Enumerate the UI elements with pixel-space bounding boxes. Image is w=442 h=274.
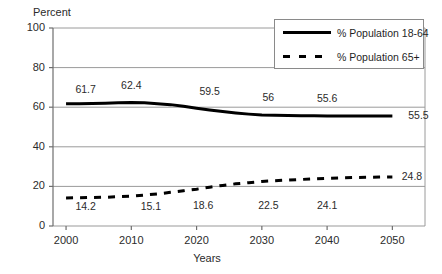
legend-entry-population-18-64: % Population 18-64 (275, 20, 423, 45)
data-point-label: 56 (247, 91, 289, 103)
legend-solid-line-icon (281, 26, 333, 40)
data-point-label: 62.4 (110, 79, 152, 91)
y-axis-tick-label: 60 (5, 100, 45, 112)
x-axis-tick-label: 2040 (297, 234, 357, 246)
data-point-label: 14.2 (65, 200, 107, 212)
chart-container: Percent Years 02040608010020002010202020… (0, 0, 442, 274)
legend-dashed-line-icon (281, 50, 333, 64)
x-axis-tick-label: 2010 (101, 234, 161, 246)
data-point-label: 61.7 (65, 83, 107, 95)
legend-label: % Population 18-64 (337, 27, 429, 39)
y-axis-tick-label: 20 (5, 179, 45, 191)
data-point-label: 55.5 (397, 109, 439, 121)
y-axis-tick-label: 80 (5, 61, 45, 73)
y-axis-tick-label: 0 (5, 219, 45, 231)
y-axis-tick-label: 40 (5, 140, 45, 152)
legend-entry-population-65-plus: % Population 65+ (275, 44, 423, 69)
data-point-label: 15.1 (130, 200, 172, 212)
data-point-label: 55.6 (306, 92, 348, 104)
x-axis-tick-label: 2030 (232, 234, 292, 246)
legend-label: % Population 65+ (337, 51, 420, 63)
y-axis-tick-label: 100 (5, 21, 45, 33)
x-axis-tick-label: 2000 (36, 234, 96, 246)
data-point-label: 24.1 (306, 199, 348, 211)
data-point-label: 24.8 (391, 170, 433, 182)
data-point-label: 59.5 (189, 85, 231, 97)
x-axis-tick-label: 2050 (362, 234, 422, 246)
data-point-label: 18.6 (182, 199, 224, 211)
data-point-label: 22.5 (247, 199, 289, 211)
chart-legend: % Population 18-64 % Population 65+ (274, 19, 424, 69)
x-axis-tick-label: 2020 (167, 234, 227, 246)
